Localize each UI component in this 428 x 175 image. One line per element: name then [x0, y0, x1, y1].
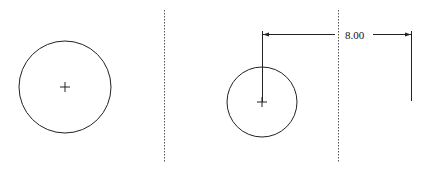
dimension-label: 8.00 — [345, 29, 365, 41]
left-panel — [19, 41, 111, 133]
left-center-mark-icon — [60, 82, 70, 92]
diagram-canvas: 8.00 — [0, 0, 428, 175]
dimension-annotation: 8.00 — [263, 29, 412, 103]
right-panel: 8.00 — [227, 29, 412, 138]
